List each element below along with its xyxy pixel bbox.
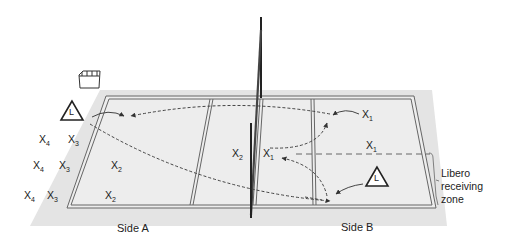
court-diagram — [0, 0, 511, 250]
libero-b-label: L — [374, 174, 379, 183]
side-a-label: Side A — [117, 223, 149, 234]
player-a-x4-2: X4 — [33, 160, 44, 173]
player-b-x1-mid: X1 — [366, 140, 377, 153]
player-b-x1-net: X1 — [263, 148, 274, 161]
zone-label-line-1: Libero — [441, 167, 483, 180]
side-b-label: Side B — [341, 222, 373, 233]
player-a-x2-2: X2 — [105, 190, 116, 203]
player-a-x2-net: X2 — [232, 148, 243, 161]
player-a-x4-3: X4 — [24, 190, 35, 203]
player-a-x3-1: X3 — [68, 134, 79, 147]
zone-label-line-3: zone — [441, 193, 483, 206]
player-a-x4-1: X4 — [39, 134, 50, 147]
player-a-x3-3: X3 — [47, 190, 58, 203]
player-a-x3-2: X3 — [59, 160, 70, 173]
libero-zone-label: Libero receiving zone — [441, 167, 483, 206]
player-a-x2-1: X2 — [111, 160, 122, 173]
player-b-x1-top: X1 — [362, 109, 373, 122]
scorer-table-icon — [79, 71, 100, 88]
libero-a-label: L — [69, 108, 74, 117]
zone-label-line-2: receiving — [441, 180, 483, 193]
